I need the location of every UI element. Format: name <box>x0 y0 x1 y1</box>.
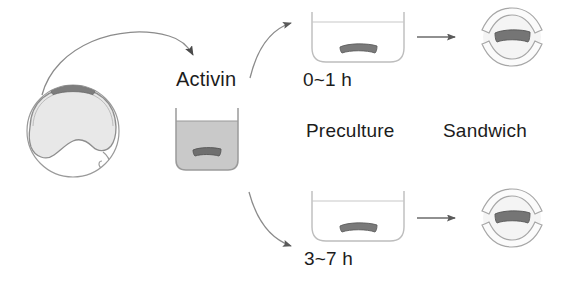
preculture-label: Preculture <box>306 120 395 142</box>
sandwich-label: Sandwich <box>443 120 527 142</box>
embryo-diagram <box>27 85 119 177</box>
explant-in-beaker <box>193 148 221 156</box>
explant-in-sandwich-bottom <box>495 211 530 223</box>
curved-arrow-activin-to-bottom-dish <box>249 192 291 246</box>
time-label-top: 0~1 h <box>303 69 352 91</box>
preculture-dish-bottom <box>312 191 404 241</box>
explant-in-sandwich-top <box>495 30 530 42</box>
sandwich-top <box>482 8 542 66</box>
activin-beaker <box>174 108 240 173</box>
activin-label: Activin <box>176 68 236 91</box>
figure-canvas: Activin 0~1 h 3~7 h Preculture Sandwich <box>0 0 573 281</box>
time-label-bottom: 3~7 h <box>304 248 353 270</box>
sandwich-bottom <box>482 189 542 247</box>
preculture-dish-top <box>312 12 404 62</box>
curved-arrow-activin-to-top-dish <box>250 23 291 78</box>
